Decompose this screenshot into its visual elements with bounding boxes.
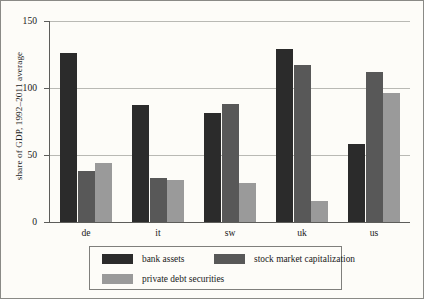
legend-label-stock-market-capitalization: stock market capitalization (254, 254, 355, 264)
bar-group-it (132, 21, 184, 222)
chart-figure: share of GDP, 1992–2011 average 05010015… (0, 0, 424, 299)
bar-sw-private-debt-securities[interactable] (239, 183, 256, 222)
bar-uk-private-debt-securities[interactable] (311, 201, 328, 222)
y-tick-mark (44, 222, 50, 223)
legend-swatch-stock-market-capitalization (214, 254, 245, 264)
bar-group-us (348, 21, 400, 222)
legend-item-private-debt-securities[interactable]: private debt securities (102, 269, 224, 289)
bar-us-bank-assets[interactable] (348, 144, 365, 222)
y-axis-title: share of GDP, 1992–2011 average (14, 6, 24, 226)
legend-label-bank-assets: bank assets (142, 254, 184, 264)
chart-legend: bank assets stock market capitalization … (89, 246, 342, 290)
bar-sw-stock-market-capitalization[interactable] (222, 104, 239, 222)
y-tick-label: 50 (0, 149, 37, 160)
bar-it-private-debt-securities[interactable] (167, 180, 184, 222)
bar-sw-bank-assets[interactable] (204, 113, 221, 222)
legend-item-stock-market-capitalization[interactable]: stock market capitalization (214, 249, 355, 269)
bar-uk-bank-assets[interactable] (276, 49, 293, 222)
bar-us-private-debt-securities[interactable] (383, 93, 400, 222)
legend-item-bank-assets[interactable]: bank assets (102, 249, 184, 269)
x-tick-label-it: it (155, 227, 160, 238)
legend-row-2: private debt securities (90, 269, 341, 289)
legend-label-private-debt-securities: private debt securities (142, 274, 224, 284)
bar-us-stock-market-capitalization[interactable] (366, 72, 383, 222)
legend-swatch-private-debt-securities (102, 274, 133, 284)
legend-row-1: bank assets stock market capitalization (90, 249, 341, 269)
y-tick-label: 150 (0, 15, 37, 26)
y-tick-label: 0 (0, 216, 37, 227)
bar-it-stock-market-capitalization[interactable] (150, 178, 167, 222)
legend-swatch-bank-assets (102, 254, 133, 264)
bar-group-uk (276, 21, 328, 222)
bar-de-bank-assets[interactable] (60, 53, 77, 222)
y-tick-label: 100 (0, 82, 37, 93)
bar-group-sw (204, 21, 256, 222)
bar-uk-stock-market-capitalization[interactable] (294, 65, 311, 222)
bar-de-stock-market-capitalization[interactable] (78, 171, 95, 222)
x-tick-label-de: de (81, 227, 90, 238)
x-tick-label-us: us (370, 227, 379, 238)
bar-de-private-debt-securities[interactable] (95, 163, 112, 222)
x-tick-label-sw: sw (225, 227, 236, 238)
x-axis-line (49, 222, 410, 223)
bar-group-de (60, 21, 112, 222)
plot-area (50, 21, 410, 222)
bar-it-bank-assets[interactable] (132, 105, 149, 222)
x-tick-label-uk: uk (297, 227, 307, 238)
